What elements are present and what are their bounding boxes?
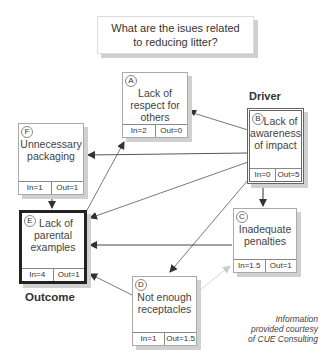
in-count: In=1.5	[234, 260, 265, 272]
node-b-lack-of-awareness[interactable]: B Lack of awareness of impact In=0 Out=5	[247, 108, 304, 184]
node-f-unnecessary-packaging[interactable]: F Unnecessary packaging In=1 Out=1	[18, 123, 84, 195]
question-title-box: What are the isues related to reducing l…	[97, 16, 254, 54]
node-letter-badge: A	[125, 75, 137, 87]
node-text-line: Inadequate	[234, 223, 296, 235]
out-count: Out=5	[275, 169, 301, 181]
edge-b-to-a-head	[189, 110, 197, 116]
node-d-not-enough-receptacles[interactable]: D Not enough receptacles In=1 Out=1.5	[132, 276, 197, 346]
node-a-lack-of-respect[interactable]: A Lack of respect for others In=2 Out=0	[122, 72, 188, 138]
edge-b-to-a	[190, 112, 248, 130]
node-metrics: In=0 Out=5	[250, 168, 301, 181]
node-text-line: examples	[22, 241, 84, 253]
node-text-line: parental	[22, 229, 84, 241]
credit-line: of CUE Consulting	[248, 334, 318, 344]
driver-label: Driver	[249, 90, 281, 102]
out-count: Out=0	[155, 125, 188, 137]
in-count: In=1	[133, 333, 164, 345]
node-text-line: of impact	[250, 139, 301, 151]
title-line-1: What are the isues related	[98, 21, 253, 35]
out-count: Out=1	[51, 182, 84, 194]
edge-b-to-e	[90, 162, 248, 218]
node-text-line: awareness	[250, 127, 301, 139]
edge-d-to-e	[90, 274, 132, 295]
in-count: In=1	[19, 182, 51, 194]
node-text-line: others	[123, 111, 187, 123]
credit-line: Information	[248, 314, 318, 324]
node-e-lack-of-parental-examples[interactable]: E Lack of parental examples In=4 Out=1	[19, 210, 87, 284]
title-line-2: to reducing litter?	[98, 35, 253, 49]
in-count: In=2	[123, 125, 155, 137]
node-letter-badge: E	[24, 215, 36, 227]
edge-d-to-c	[200, 266, 230, 290]
node-letter-badge: F	[21, 126, 33, 138]
node-letter-badge: D	[135, 279, 147, 291]
out-count: Out=1	[265, 260, 297, 272]
node-text-line: Not enough	[133, 291, 196, 303]
node-metrics: In=1 Out=1	[19, 181, 83, 194]
node-metrics: In=1.5 Out=1	[234, 259, 296, 272]
node-letter-badge: C	[236, 211, 248, 223]
node-text-line: packaging	[19, 150, 83, 162]
in-count: In=0	[250, 169, 275, 181]
node-metrics: In=4 Out=1	[22, 268, 84, 281]
in-count: In=4	[22, 269, 53, 281]
edge-b-to-f	[88, 153, 248, 155]
node-text-line: receptacles	[133, 303, 196, 315]
out-count: Out=1	[53, 269, 85, 281]
node-text-line: Unnecessary	[19, 138, 83, 150]
outcome-label: Outcome	[25, 291, 75, 303]
edge-e-to-a	[86, 142, 124, 212]
credit-line: provided courtesy	[248, 324, 318, 334]
credit-note: Information provided courtesy of CUE Con…	[248, 314, 318, 344]
node-c-inadequate-penalties[interactable]: C Inadequate penalties In=1.5 Out=1	[233, 208, 297, 273]
node-metrics: In=2 Out=0	[123, 124, 187, 137]
node-text-line: Lack of	[123, 87, 187, 99]
node-metrics: In=1 Out=1.5	[133, 332, 196, 345]
out-count: Out=1.5	[164, 333, 196, 345]
node-text-line: respect for	[123, 99, 187, 111]
node-letter-badge: B	[252, 113, 264, 125]
node-text-line: penalties	[234, 235, 296, 247]
